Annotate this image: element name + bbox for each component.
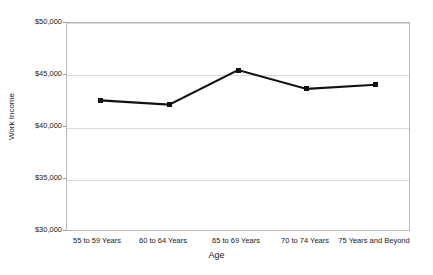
x-axis-title: Age xyxy=(208,250,224,261)
y-tick-label: $50,000 xyxy=(0,18,62,26)
data-point xyxy=(373,82,378,87)
x-tick-label: 55 to 59 Years xyxy=(59,236,135,245)
data-point xyxy=(98,98,103,103)
line-chart: $50,000 $45,000 $40,000 $35,000 $30,000 … xyxy=(0,0,433,275)
x-tick-label: 75 Years and Beyond xyxy=(329,236,419,245)
data-point xyxy=(167,102,172,107)
y-tick-mark xyxy=(63,230,66,231)
y-tick-mark xyxy=(63,74,66,75)
y-axis-title: Work Income xyxy=(7,87,16,147)
y-tick-label: $30,000 xyxy=(0,226,62,234)
y-axis: $50,000 $45,000 $40,000 $35,000 $30,000 xyxy=(0,0,433,275)
data-point xyxy=(236,68,241,73)
data-point xyxy=(304,86,309,91)
x-tick-label: 60 to 64 Years xyxy=(125,236,201,245)
y-tick-mark xyxy=(63,178,66,179)
x-axis-title-wrap: Age xyxy=(0,250,433,261)
x-tick-label: 65 to 69 Years xyxy=(198,236,274,245)
y-tick-mark xyxy=(63,126,66,127)
y-tick-mark xyxy=(63,22,66,23)
y-tick-label: $45,000 xyxy=(0,70,62,78)
y-tick-label: $35,000 xyxy=(0,174,62,182)
